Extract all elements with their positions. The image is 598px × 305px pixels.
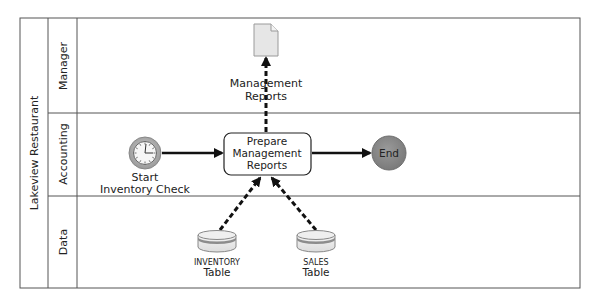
end-event-label: End bbox=[379, 147, 399, 159]
database-icon bbox=[297, 231, 335, 252]
pool-title: Lakeview Restaurant bbox=[28, 95, 41, 210]
task-label-line2: Management bbox=[232, 147, 301, 159]
lane-label-manager: Manager bbox=[57, 41, 70, 90]
start-event-label-line2: Inventory Check bbox=[100, 183, 191, 196]
document-label-line2: Reports bbox=[245, 90, 287, 103]
clock-icon bbox=[134, 142, 157, 165]
sales-label-line2: Table bbox=[301, 266, 329, 278]
lane-label-data: Data bbox=[57, 229, 70, 255]
task-prepare-management-reports[interactable]: Prepare Management Reports bbox=[224, 133, 311, 175]
end-event[interactable]: End bbox=[372, 136, 406, 170]
task-label-line3: Reports bbox=[247, 159, 287, 171]
inventory-label-line2: Table bbox=[202, 266, 230, 278]
document-label-line1: Management bbox=[230, 77, 303, 90]
task-label-line1: Prepare bbox=[247, 135, 287, 147]
database-icon bbox=[198, 231, 236, 253]
bpmn-diagram: Lakeview Restaurant Manager Accounting D… bbox=[0, 0, 598, 305]
lane-label-accounting: Accounting bbox=[57, 123, 70, 184]
